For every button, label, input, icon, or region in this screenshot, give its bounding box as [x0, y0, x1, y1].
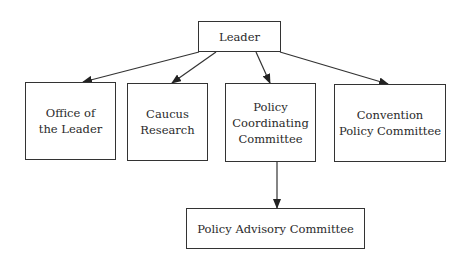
node-office-of-the-leader: Office of the Leader: [25, 82, 116, 160]
node-caucus-label: Caucus Research: [140, 106, 194, 138]
node-policy-coordinating-committee: Policy Coordinating Committee: [225, 83, 316, 162]
node-policy-advisory-committee: Policy Advisory Committee: [186, 208, 365, 249]
edge-leader-cpc: [280, 52, 388, 84]
node-pac-label: Policy Advisory Committee: [197, 221, 354, 237]
edge-leader-pcc: [256, 52, 270, 83]
node-pcc-label: Policy Coordinating Committee: [232, 99, 309, 147]
edge-leader-caucus: [172, 52, 216, 83]
node-office-label: Office of the Leader: [39, 105, 102, 137]
node-leader-label: Leader: [219, 29, 260, 45]
node-caucus-research: Caucus Research: [127, 83, 208, 161]
edge-leader-office: [83, 52, 199, 82]
node-convention-policy-committee: Convention Policy Committee: [334, 84, 446, 162]
node-leader: Leader: [198, 21, 281, 52]
node-cpc-label: Convention Policy Committee: [339, 107, 441, 139]
